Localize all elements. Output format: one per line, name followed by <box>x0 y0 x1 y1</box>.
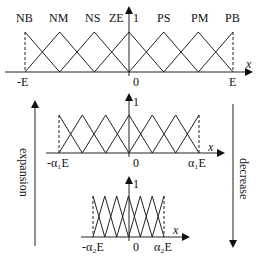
top-y-tick: 1 <box>133 12 139 24</box>
middle-left-label: -α₁E <box>47 157 69 169</box>
middle-y-tick: 1 <box>133 96 139 108</box>
diagram: NB NM NS ZE PS PM PB 1 x -E 0 E 1 x -α₁E… <box>0 0 269 265</box>
top-right-label: E <box>229 76 236 88</box>
top-x-label: x <box>246 58 251 70</box>
bottom-y-tick: 1 <box>133 178 139 190</box>
set-label-pb: PB <box>225 12 240 24</box>
set-label-ns: NS <box>85 12 100 24</box>
top-left-label: -E <box>17 76 28 88</box>
diagram-graphics <box>0 0 269 265</box>
middle-origin-label: 0 <box>133 157 139 169</box>
decrease-label: decrease <box>236 158 251 199</box>
set-label-nm: NM <box>49 12 68 24</box>
set-label-ps: PS <box>157 12 170 24</box>
top-chart <box>5 8 251 76</box>
bottom-x-label: x <box>173 224 178 236</box>
top-origin-label: 0 <box>133 76 139 88</box>
middle-right-label: α₁E <box>188 157 206 169</box>
set-label-pm: PM <box>191 12 208 24</box>
expansion-label: expansion <box>16 148 31 197</box>
bottom-origin-label: 0 <box>133 241 139 253</box>
middle-x-label: x <box>208 141 213 153</box>
bottom-right-label: α₂E <box>154 241 172 253</box>
set-label-nb: NB <box>16 12 33 24</box>
set-label-ze: ZE <box>109 12 124 24</box>
bottom-left-label: -α₂E <box>82 241 104 253</box>
